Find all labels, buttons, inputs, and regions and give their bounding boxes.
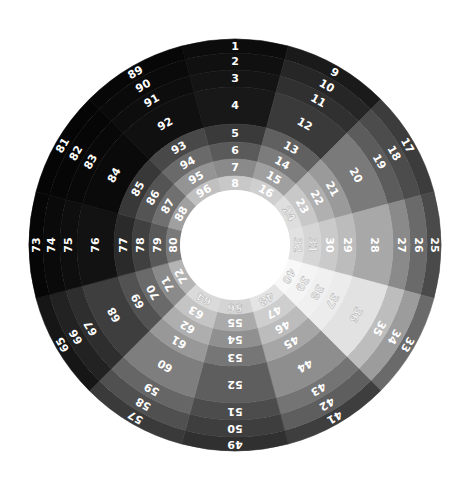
segment-label: 80: [167, 237, 180, 253]
segment-label: 31: [306, 237, 319, 252]
segment-label: 51: [227, 405, 242, 418]
segment-label: 30: [323, 237, 336, 253]
segment-label: 8: [231, 177, 239, 190]
segment-label: 79: [151, 237, 164, 252]
segment-label: 49: [227, 438, 242, 451]
segment-label: 7: [231, 161, 239, 174]
radial-value-chart: 1234567891011121314151617181920212223242…: [0, 0, 471, 488]
segment-label: 74: [45, 237, 58, 253]
segment-label: 77: [117, 237, 130, 252]
segment-label: 32: [291, 237, 304, 252]
segment-label: 76: [89, 237, 102, 253]
segment-label: 29: [341, 237, 354, 252]
segment-label: 27: [395, 237, 408, 252]
segment-label: 5: [231, 127, 239, 140]
segment-label: 56: [227, 301, 243, 314]
segment-label: 78: [134, 237, 147, 252]
segment-label: 25: [428, 237, 441, 252]
segment-label: 52: [227, 378, 242, 391]
segment-label: 6: [231, 144, 239, 157]
segment-label: 50: [227, 422, 243, 435]
segment-label: 3: [231, 72, 239, 85]
segment-label: 73: [30, 237, 43, 252]
segment-label: 54: [227, 333, 243, 346]
segment-label: 28: [368, 237, 381, 252]
segment-label: 26: [412, 237, 425, 253]
center-hole: [180, 190, 290, 300]
segment-label: 55: [227, 316, 242, 329]
segment-label: 1: [231, 40, 239, 53]
segment-label: 53: [227, 351, 242, 364]
segment-label: 4: [231, 99, 239, 112]
segment-label: 75: [62, 237, 75, 252]
segment-label: 2: [231, 55, 239, 68]
